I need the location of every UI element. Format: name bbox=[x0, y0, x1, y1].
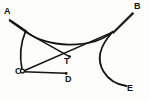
point-label-d: D bbox=[65, 75, 72, 84]
point-label-a: A bbox=[4, 7, 11, 16]
caustic-right-branch-to-E bbox=[100, 32, 127, 86]
tangent-right-cusp-to-B bbox=[112, 12, 134, 33]
diagram-canvas: A B C D E T bbox=[0, 0, 149, 101]
point-label-t: T bbox=[64, 57, 70, 66]
point-label-b: B bbox=[134, 2, 141, 11]
point-label-e: E bbox=[127, 84, 133, 93]
point-label-c: C bbox=[15, 67, 22, 76]
tangent-B-wedge bbox=[112, 12, 134, 33]
ray-C-to-D bbox=[24, 72, 66, 73]
caustic-left-branch-to-C bbox=[20, 31, 25, 69]
ray-A-secondary bbox=[11, 21, 26, 32]
